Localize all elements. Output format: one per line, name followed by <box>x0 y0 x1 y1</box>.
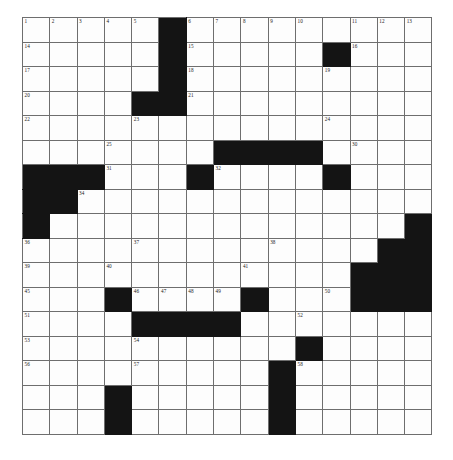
crossword-cell[interactable]: 45 <box>23 287 50 312</box>
crossword-cell[interactable] <box>214 385 241 410</box>
crossword-cell[interactable] <box>323 361 350 386</box>
crossword-cell[interactable] <box>50 91 77 116</box>
crossword-cell[interactable] <box>159 140 186 165</box>
crossword-cell[interactable] <box>323 140 350 165</box>
crossword-cell[interactable] <box>377 336 404 361</box>
crossword-cell[interactable] <box>77 312 104 337</box>
crossword-cell[interactable] <box>132 214 159 239</box>
crossword-cell[interactable] <box>295 91 322 116</box>
crossword-cell[interactable] <box>241 336 268 361</box>
crossword-cell[interactable] <box>405 116 432 141</box>
crossword-cell[interactable] <box>295 42 322 67</box>
crossword-cell[interactable]: 5 <box>132 18 159 43</box>
crossword-cell[interactable]: 58 <box>295 361 322 386</box>
crossword-cell[interactable] <box>186 189 213 214</box>
crossword-cell[interactable] <box>214 91 241 116</box>
crossword-cell[interactable] <box>132 410 159 435</box>
crossword-cell[interactable] <box>377 91 404 116</box>
crossword-cell[interactable] <box>405 67 432 92</box>
crossword-cell[interactable] <box>241 116 268 141</box>
crossword-cell[interactable]: 12 <box>377 18 404 43</box>
crossword-cell[interactable] <box>104 189 131 214</box>
crossword-cell[interactable] <box>323 214 350 239</box>
crossword-cell[interactable] <box>241 410 268 435</box>
crossword-cell[interactable]: 14 <box>23 42 50 67</box>
crossword-cell[interactable]: 54 <box>132 336 159 361</box>
crossword-cell[interactable] <box>132 263 159 288</box>
crossword-cell[interactable]: 10 <box>295 18 322 43</box>
crossword-cell[interactable] <box>350 189 377 214</box>
crossword-cell[interactable] <box>50 385 77 410</box>
crossword-cell[interactable] <box>132 165 159 190</box>
crossword-cell[interactable] <box>132 140 159 165</box>
crossword-cell[interactable] <box>186 410 213 435</box>
crossword-cell[interactable] <box>295 238 322 263</box>
crossword-cell[interactable] <box>77 385 104 410</box>
crossword-cell[interactable] <box>241 238 268 263</box>
crossword-cell[interactable]: 25 <box>104 140 131 165</box>
crossword-cell[interactable]: 2 <box>50 18 77 43</box>
crossword-cell[interactable]: 36 <box>23 238 50 263</box>
crossword-cell[interactable] <box>377 67 404 92</box>
crossword-cell[interactable] <box>50 263 77 288</box>
crossword-cell[interactable] <box>159 336 186 361</box>
crossword-cell[interactable] <box>77 361 104 386</box>
crossword-cell[interactable] <box>377 385 404 410</box>
crossword-cell[interactable] <box>50 336 77 361</box>
crossword-cell[interactable] <box>241 214 268 239</box>
crossword-cell[interactable] <box>50 410 77 435</box>
crossword-cell[interactable] <box>405 312 432 337</box>
crossword-cell[interactable] <box>159 410 186 435</box>
crossword-cell[interactable]: 37 <box>132 238 159 263</box>
crossword-cell[interactable] <box>268 189 295 214</box>
crossword-cell[interactable] <box>77 238 104 263</box>
crossword-cell[interactable] <box>295 189 322 214</box>
crossword-cell[interactable] <box>405 165 432 190</box>
crossword-cell[interactable] <box>186 214 213 239</box>
crossword-cell[interactable] <box>350 67 377 92</box>
crossword-cell[interactable] <box>186 116 213 141</box>
crossword-cell[interactable] <box>377 116 404 141</box>
crossword-cell[interactable] <box>241 385 268 410</box>
crossword-cell[interactable]: 56 <box>23 361 50 386</box>
crossword-cell[interactable] <box>159 189 186 214</box>
crossword-cell[interactable]: 22 <box>23 116 50 141</box>
crossword-cell[interactable]: 17 <box>23 67 50 92</box>
crossword-cell[interactable] <box>159 116 186 141</box>
crossword-cell[interactable] <box>350 116 377 141</box>
crossword-cell[interactable] <box>50 361 77 386</box>
crossword-cell[interactable] <box>350 410 377 435</box>
crossword-cell[interactable] <box>132 42 159 67</box>
crossword-cell[interactable] <box>268 91 295 116</box>
crossword-cell[interactable] <box>268 214 295 239</box>
crossword-cell[interactable]: 23 <box>132 116 159 141</box>
crossword-cell[interactable] <box>104 42 131 67</box>
crossword-cell[interactable] <box>323 312 350 337</box>
crossword-cell[interactable] <box>405 42 432 67</box>
crossword-cell[interactable] <box>159 214 186 239</box>
crossword-cell[interactable] <box>104 67 131 92</box>
crossword-cell[interactable] <box>104 312 131 337</box>
crossword-cell[interactable] <box>405 410 432 435</box>
crossword-cell[interactable] <box>377 189 404 214</box>
crossword-cell[interactable] <box>241 91 268 116</box>
crossword-cell[interactable] <box>132 189 159 214</box>
crossword-cell[interactable] <box>159 361 186 386</box>
crossword-cell[interactable] <box>377 140 404 165</box>
crossword-cell[interactable] <box>50 287 77 312</box>
crossword-cell[interactable] <box>323 410 350 435</box>
crossword-cell[interactable]: 49 <box>214 287 241 312</box>
crossword-cell[interactable] <box>241 361 268 386</box>
crossword-cell[interactable] <box>77 42 104 67</box>
crossword-cell[interactable] <box>77 287 104 312</box>
crossword-cell[interactable] <box>350 336 377 361</box>
crossword-cell[interactable] <box>323 385 350 410</box>
crossword-cell[interactable] <box>377 214 404 239</box>
crossword-cell[interactable]: 18 <box>186 67 213 92</box>
crossword-cell[interactable] <box>323 238 350 263</box>
crossword-cell[interactable] <box>186 140 213 165</box>
crossword-cell[interactable] <box>104 214 131 239</box>
crossword-cell[interactable]: 13 <box>405 18 432 43</box>
crossword-cell[interactable] <box>104 336 131 361</box>
crossword-cell[interactable] <box>350 361 377 386</box>
